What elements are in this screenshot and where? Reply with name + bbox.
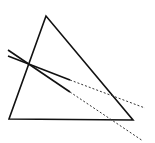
lower-line-solid [8, 50, 70, 92]
upper-line-solid [8, 56, 70, 80]
lower-line-dotted-extension [70, 92, 143, 141]
upper-line-dotted-extension [70, 80, 145, 108]
triangle [9, 16, 133, 120]
diagram-svg [0, 0, 155, 143]
geometry-diagram [0, 0, 155, 143]
